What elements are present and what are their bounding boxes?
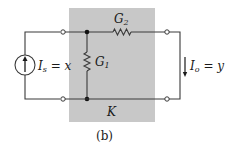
figure-caption: (b) — [96, 129, 113, 143]
circuit-diagram: Is = x G2 G1 Io = y K (b) — [0, 0, 225, 145]
terminal-left-bottom — [61, 97, 65, 101]
terminal-right-top — [165, 30, 169, 34]
box-label: K — [106, 105, 117, 119]
source-label: Is = x — [37, 59, 72, 74]
output-current-arrow-icon — [183, 57, 187, 77]
right-loop-wire — [169, 32, 180, 99]
junction-top — [85, 30, 90, 35]
terminal-left-top — [61, 30, 65, 34]
terminal-right-bottom — [165, 97, 169, 101]
current-source-icon — [15, 55, 35, 75]
output-label: Io = y — [189, 59, 224, 74]
